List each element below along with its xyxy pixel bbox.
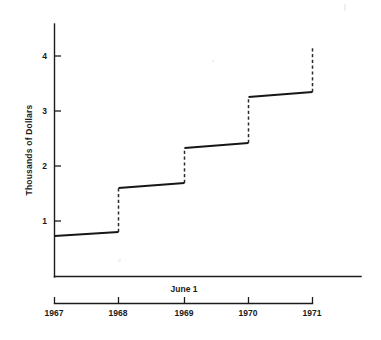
x-tick-label-1967: 1967	[45, 308, 64, 318]
x-axis-caption: June 1	[171, 284, 198, 294]
y-axis-title: Thousands of Dollars	[24, 104, 34, 195]
y-tick-label-1: 1	[42, 216, 47, 226]
x-tick-label-1971: 1971	[303, 308, 322, 318]
x-tick-label-1968: 1968	[109, 308, 128, 318]
step-segment-1967-1968	[55, 232, 119, 236]
x-tick-label-1970: 1970	[239, 308, 258, 318]
x-tick-label-1969: 1969	[175, 308, 194, 318]
y-axis-ticks	[55, 56, 62, 221]
y-tick-label-4: 4	[42, 51, 47, 61]
x-axis-ticks	[55, 297, 313, 304]
y-tick-label-3: 3	[42, 106, 47, 116]
step-series-solid	[55, 92, 313, 236]
step-segment-1970-1971	[249, 92, 313, 97]
step-series-risers	[119, 46, 313, 232]
y-tick-label-2: 2	[42, 161, 47, 171]
chart-figure: 4 3 2 1 Thousands of Dollars June 1	[0, 0, 381, 340]
step-chart-canvas: 4 3 2 1 Thousands of Dollars June 1	[0, 0, 381, 340]
scan-artifacts	[118, 4, 346, 262]
step-segment-1969-1970	[185, 143, 249, 148]
step-segment-1968-1969	[119, 183, 185, 188]
